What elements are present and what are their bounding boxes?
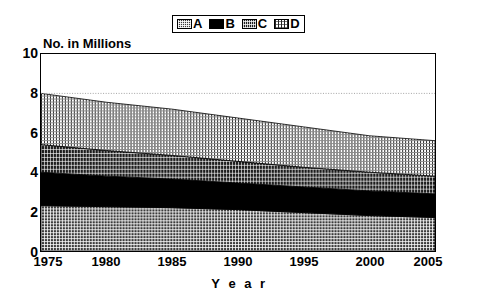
x-tick-1995: 1995 <box>290 255 319 268</box>
chart-series-group <box>41 93 435 251</box>
chart-legend: A B C D <box>172 15 305 33</box>
legend-item-c[interactable]: C <box>242 17 267 30</box>
legend-swatch-d-icon <box>274 19 289 29</box>
legend-swatch-a-icon <box>177 19 192 29</box>
legend-item-d[interactable]: D <box>274 17 299 30</box>
legend-swatch-c-icon <box>242 19 257 29</box>
x-tick-2005: 2005 <box>414 255 443 268</box>
y-tick-10: 10 <box>4 46 38 60</box>
x-tick-1980: 1980 <box>92 255 121 268</box>
x-tick-1985: 1985 <box>158 255 187 268</box>
x-tick-2000: 2000 <box>356 255 385 268</box>
y-tick-8: 8 <box>4 86 38 100</box>
y-tick-2: 2 <box>4 205 38 219</box>
y-axis-tick-labels: 0 2 4 6 8 10 <box>0 0 38 308</box>
legend-item-a[interactable]: A <box>177 17 202 30</box>
plot-area <box>40 53 436 252</box>
x-tick-1975: 1975 <box>34 255 63 268</box>
chart-page: A B C D No. in Millions 0 2 4 6 8 10 <box>0 0 479 308</box>
y-tick-4: 4 <box>4 165 38 179</box>
x-axis-title: Y e a r <box>0 276 479 291</box>
legend-label-b: B <box>225 17 234 30</box>
y-tick-6: 6 <box>4 126 38 140</box>
y-axis-title: No. in Millions <box>43 36 131 51</box>
legend-item-b[interactable]: B <box>209 17 234 30</box>
legend-label-a: A <box>193 17 202 30</box>
stacked-area-chart <box>41 54 435 251</box>
x-tick-1990: 1990 <box>224 255 253 268</box>
legend-label-d: D <box>290 17 299 30</box>
legend-label-c: C <box>258 17 267 30</box>
legend-swatch-b-icon <box>209 19 224 29</box>
